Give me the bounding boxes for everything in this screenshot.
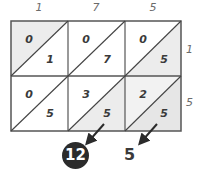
cell-1-1-ones: 5 <box>100 107 114 120</box>
lattice-grid <box>0 0 198 172</box>
cell-1-2-ones: 5 <box>157 107 171 120</box>
cell-0-2-tens: 0 <box>136 33 150 46</box>
cell-1-0-ones: 5 <box>43 107 57 120</box>
cell-0-0-tens: 0 <box>22 33 36 46</box>
cell-1-0-tens: 0 <box>22 88 36 101</box>
cell-0-1-tens: 0 <box>79 33 93 46</box>
cell-0-2-ones: 5 <box>157 53 171 66</box>
cell-1-2-tens: 2 <box>136 88 150 101</box>
cell-1-1-tens: 3 <box>79 88 93 101</box>
cell-0-1-ones: 7 <box>100 53 114 66</box>
cell-0-0-ones: 1 <box>43 53 57 66</box>
diagonal-sum-highlighted: 12 <box>62 142 89 169</box>
diagonal-sum-plain: 5 <box>124 145 135 164</box>
